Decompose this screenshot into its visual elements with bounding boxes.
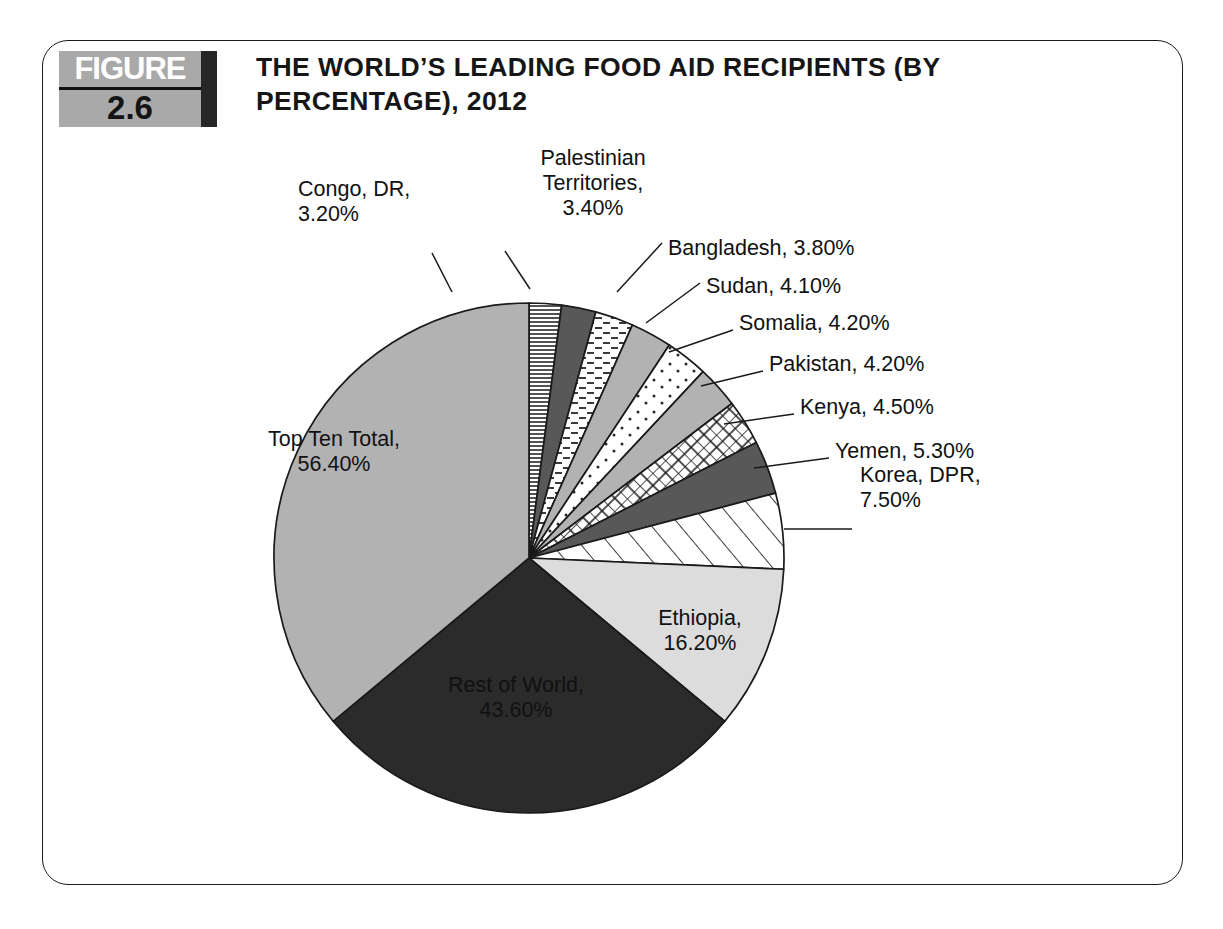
leader-line: [646, 283, 700, 323]
pie-slice-label: Sudan, 4.10%: [706, 274, 841, 298]
pie-chart-svg: Congo, DR,3.20%PalestinianTerritories,3.…: [42, 40, 1183, 885]
leader-line: [432, 253, 452, 292]
pie-slice-label: Yemen, 5.30%: [835, 439, 974, 463]
pie-slice-label: Congo, DR,3.20%: [298, 177, 410, 226]
pie-slice-label: Pakistan, 4.20%: [769, 352, 924, 376]
pie-slice-label: Kenya, 4.50%: [800, 395, 934, 419]
leader-line: [505, 251, 530, 289]
pie-slice-label: Somalia, 4.20%: [739, 311, 890, 335]
pie-slice-label: Ethiopia,16.20%: [658, 606, 742, 655]
leader-line: [669, 330, 733, 352]
pie-slices: [274, 303, 784, 813]
leader-line: [617, 243, 662, 292]
pie-chart: Congo, DR,3.20%PalestinianTerritories,3.…: [42, 40, 1183, 885]
pie-slice-label: PalestinianTerritories,3.40%: [540, 146, 645, 220]
pie-slice-label: Korea, DPR,7.50%: [860, 463, 981, 512]
pie-slice-label: Bangladesh, 3.80%: [668, 236, 854, 260]
